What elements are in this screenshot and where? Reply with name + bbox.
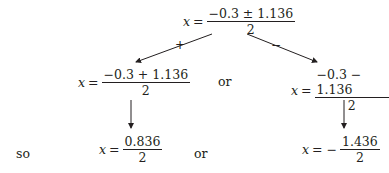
equals-sign: = (88, 75, 98, 90)
top-equation: x = −0.3 ± 1.136 2 (183, 6, 295, 37)
fraction: −0.3 − 1.136 2 (315, 67, 389, 113)
right-mid-equation: x = −0.3 − 1.136 2 (291, 67, 389, 113)
numerator: −0.3 − 1.136 (315, 67, 389, 98)
arrow-minus (247, 34, 317, 62)
variable: x (99, 142, 106, 157)
numerator: 1.436 (340, 134, 380, 150)
denominator: 2 (348, 98, 356, 113)
fraction: 0.836 2 (123, 134, 163, 165)
variable: x (183, 14, 190, 29)
numerator: 0.836 (123, 134, 163, 150)
or-text-bottom: or (194, 146, 208, 161)
variable: x (291, 83, 298, 98)
minus-label: − (271, 38, 281, 52)
denominator: 2 (356, 150, 364, 165)
right-bottom-equation: x = − 1.436 2 (302, 134, 380, 165)
fraction: −0.3 ± 1.136 2 (207, 6, 296, 37)
equals-sign: = (301, 83, 311, 98)
numerator: −0.3 ± 1.136 (207, 6, 296, 22)
variable: x (302, 142, 309, 157)
denominator: 2 (138, 150, 146, 165)
fraction: 1.436 2 (340, 134, 380, 165)
equals-sign: = (109, 142, 119, 157)
left-bottom-equation: x = 0.836 2 (99, 134, 162, 165)
or-text-mid: or (218, 74, 232, 89)
equals-sign: = (193, 14, 203, 29)
arrow-plus (136, 34, 212, 62)
denominator: 2 (142, 83, 150, 98)
plus-label: + (175, 38, 185, 52)
numerator: −0.3 + 1.136 (102, 67, 191, 83)
fraction: −0.3 + 1.136 2 (102, 67, 191, 98)
equals-minus-sign: = − (312, 142, 337, 157)
so-text: so (16, 146, 30, 161)
left-mid-equation: x = −0.3 + 1.136 2 (78, 67, 190, 98)
denominator: 2 (247, 22, 255, 37)
variable: x (78, 75, 85, 90)
